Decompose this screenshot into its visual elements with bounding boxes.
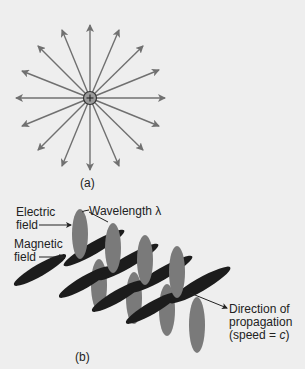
wavelength-leader-left — [82, 210, 89, 212]
speed-suffix: ) — [285, 328, 289, 342]
electric-lobe-up-2 — [105, 223, 121, 273]
magnetic-field-label-line2: field — [14, 251, 36, 263]
field-arrow-nw — [38, 46, 90, 98]
field-arrow-se — [90, 98, 143, 150]
electric-lobe-down-4 — [189, 297, 205, 353]
direction-label-line2: propagation — [229, 316, 292, 328]
electric-lobe-up-4 — [169, 246, 185, 298]
electric-field-label-line1: Electric — [16, 206, 55, 218]
wavelength-label: Wavelength λ — [89, 205, 161, 217]
electric-lobe-up-3 — [137, 235, 153, 285]
positive-charge-icon — [84, 92, 97, 105]
direction-label-line1: Direction of — [229, 303, 290, 315]
magnetic-field-label-line1: Magnetic — [14, 238, 63, 250]
electric-lobe-up-1 — [72, 209, 88, 259]
electric-field-label-line2: field — [16, 219, 38, 231]
figure-a-label: (a) — [80, 177, 95, 189]
em-wave — [11, 209, 234, 353]
direction-label-line3: (speed = c) — [229, 329, 289, 341]
field-arrow-ne — [90, 46, 143, 98]
figure-b-label: (b) — [75, 351, 90, 363]
field-arrow-sw — [38, 98, 90, 150]
speed-prefix: (speed = — [229, 328, 279, 342]
